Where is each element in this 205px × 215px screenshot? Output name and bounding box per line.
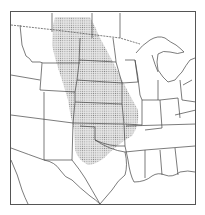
map-canvas (0, 0, 205, 215)
stippled-region (52, 17, 138, 165)
